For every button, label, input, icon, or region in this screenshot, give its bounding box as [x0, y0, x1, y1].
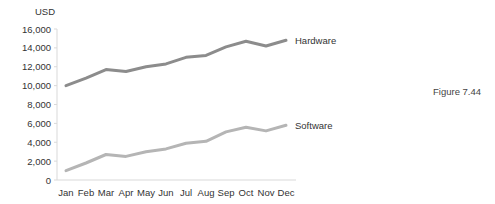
y-tick-label: 6,000 — [27, 118, 51, 129]
x-tick-label: Oct — [239, 187, 254, 198]
series-line-software — [66, 125, 286, 170]
y-tick-label: 2,000 — [27, 156, 51, 167]
x-tick-label: Jan — [58, 187, 73, 198]
y-tick-label: 8,000 — [27, 99, 51, 110]
x-tick-label: May — [137, 187, 155, 198]
y-tick-label: 4,000 — [27, 137, 51, 148]
y-tick-label: 16,000 — [22, 24, 51, 35]
series-lines — [66, 40, 286, 170]
series-label-software: Software — [295, 120, 333, 131]
y-axis: 02,0004,0006,0008,00010,00012,00014,0001… — [22, 24, 57, 186]
series-labels: HardwareSoftware — [295, 35, 336, 131]
x-tick-label: Feb — [78, 187, 94, 198]
x-tick-label: Mar — [98, 187, 114, 198]
x-tick-label: Jul — [180, 187, 192, 198]
x-tick-label: Nov — [258, 187, 275, 198]
x-tick-label: Sep — [218, 187, 235, 198]
y-tick-label: 0 — [46, 175, 51, 186]
line-chart: USD 02,0004,0006,0008,00010,00012,00014,… — [0, 0, 495, 204]
y-tick-label: 14,000 — [22, 42, 51, 53]
figure-caption: Figure 7.44 — [433, 86, 481, 97]
x-tick-label: Dec — [278, 187, 295, 198]
x-axis: JanFebMarAprMayJunJulAugSepOctNovDec — [57, 180, 296, 198]
series-line-hardware — [66, 40, 286, 85]
x-tick-label: Aug — [198, 187, 215, 198]
x-tick-label: Apr — [119, 187, 134, 198]
x-tick-label: Jun — [158, 187, 173, 198]
y-axis-unit-label: USD — [35, 6, 55, 17]
series-label-hardware: Hardware — [295, 35, 336, 46]
y-tick-label: 12,000 — [22, 61, 51, 72]
y-tick-label: 10,000 — [22, 80, 51, 91]
